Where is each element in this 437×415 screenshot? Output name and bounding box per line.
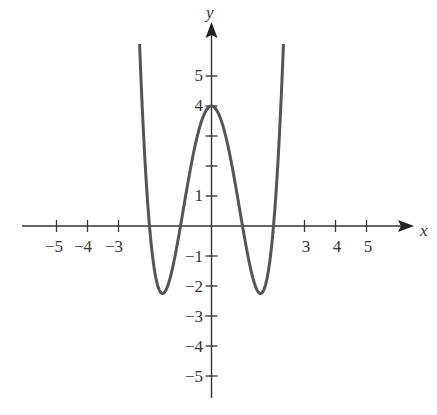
- x-tick-label: 4: [333, 237, 342, 256]
- y-tick-label: −5: [185, 367, 203, 386]
- y-tick-label: 4: [195, 96, 204, 115]
- y-tick-label: −3: [185, 307, 203, 326]
- function-graph: x y −5 −4 −3 3 4 5 5 4 1 −1 −2 −3 −4 −5: [0, 0, 437, 415]
- y-axis-label: y: [204, 3, 214, 22]
- y-tick-label: 1: [195, 186, 204, 205]
- x-tick-label: 5: [364, 237, 373, 256]
- y-tick-label: −4: [185, 337, 204, 356]
- x-tick-label: 3: [302, 237, 311, 256]
- x-tick-label: −3: [105, 237, 123, 256]
- x-tick-label: −4: [74, 237, 93, 256]
- y-tick-label: −1: [185, 247, 203, 266]
- x-axis-label: x: [419, 221, 428, 240]
- y-tick-label: −2: [185, 277, 203, 296]
- x-tick-label: −5: [45, 237, 63, 256]
- y-tick-label: 5: [195, 66, 204, 85]
